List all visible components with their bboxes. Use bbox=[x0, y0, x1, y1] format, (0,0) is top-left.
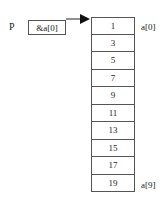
first-index-label: a[0] bbox=[141, 22, 156, 32]
array-cell: 15 bbox=[91, 140, 135, 158]
pointer-box: &a[0] bbox=[28, 20, 66, 35]
array-column: 1 3 5 7 9 11 13 15 17 19 bbox=[91, 17, 135, 192]
pointer-value: &a[0] bbox=[36, 23, 58, 33]
array-cell: 1 bbox=[91, 17, 135, 35]
cell-value: 19 bbox=[109, 178, 118, 188]
array-cell: 7 bbox=[91, 70, 135, 88]
cell-value: 13 bbox=[109, 125, 118, 135]
array-cell: 19 bbox=[91, 175, 135, 193]
cell-value: 1 bbox=[111, 21, 116, 31]
cell-value: 11 bbox=[109, 108, 118, 118]
cell-value: 5 bbox=[111, 55, 116, 65]
array-cell: 5 bbox=[91, 52, 135, 70]
cell-value: 17 bbox=[109, 160, 118, 170]
array-cell: 3 bbox=[91, 35, 135, 53]
last-index-label: a[9] bbox=[141, 180, 156, 190]
cell-value: 7 bbox=[111, 73, 116, 83]
cell-value: 9 bbox=[111, 90, 116, 100]
array-cell: 9 bbox=[91, 87, 135, 105]
cell-value: 15 bbox=[109, 143, 118, 153]
array-cell: 13 bbox=[91, 122, 135, 140]
array-cell: 11 bbox=[91, 105, 135, 123]
array-cell: 17 bbox=[91, 157, 135, 175]
pointer-name-label: P bbox=[9, 21, 15, 32]
arrow-icon bbox=[66, 12, 92, 26]
cell-value: 3 bbox=[111, 38, 116, 48]
